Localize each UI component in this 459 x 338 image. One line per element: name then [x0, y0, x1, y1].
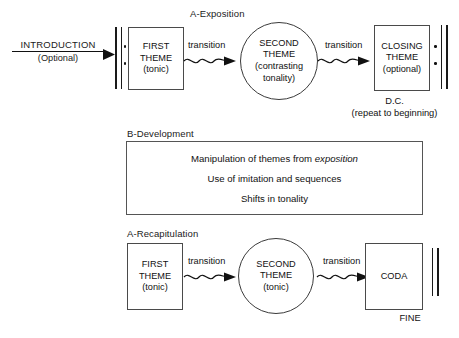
barline-thin	[432, 248, 433, 296]
recap-transition1-arrow	[184, 269, 242, 285]
dc-caption: D.C. (repeat to beginning)	[330, 96, 459, 119]
recap-coda-line1: CODA	[381, 271, 408, 283]
exposition-second-theme-line4: tonality)	[263, 73, 295, 85]
development-line-3-pre: Shifts in tonality	[241, 193, 308, 204]
barline-thin	[121, 27, 122, 89]
section-label-recapitulation: A-Recapitulation	[127, 228, 198, 239]
exposition-transition1-arrow	[184, 53, 242, 69]
exposition-transition2-arrow	[318, 53, 376, 69]
recap-first-theme-line2: THEME	[139, 271, 171, 283]
exposition-second-theme-line3: (contrasting	[255, 61, 303, 73]
development-line-2-pre: Use of imitation and sequences	[208, 173, 342, 184]
exposition-first-theme-line2: THEME	[140, 53, 172, 65]
exposition-second-theme-line1: SECOND	[259, 38, 298, 50]
introduction-subtitle: (Optional)	[38, 52, 78, 63]
recap-first-theme-line3: (tonic)	[142, 282, 168, 294]
development-line-3: Shifts in tonality	[241, 193, 308, 204]
exposition-first-theme-line1: FIRST	[143, 41, 170, 53]
exposition-closing-theme-line3: (optional)	[383, 64, 421, 76]
barline-thick	[115, 27, 117, 89]
dc-note: (repeat to beginning)	[330, 108, 459, 120]
recap-second-theme-line3: (tonic)	[263, 282, 289, 294]
recap-second-theme-circle: SECOND THEME (tonic)	[238, 238, 314, 314]
barline-thin	[441, 25, 442, 89]
repeat-dot-lower	[124, 62, 127, 65]
exposition-first-theme-line3: (tonic)	[143, 64, 169, 76]
fine-caption: FINE	[385, 313, 435, 325]
section-label-exposition: A-Exposition	[190, 8, 245, 19]
exposition-transition1-label: transition	[188, 40, 225, 50]
introduction-group: INTRODUCTION (Optional)	[12, 39, 104, 63]
development-line-1-italic: exposition	[315, 153, 358, 164]
development-line-2: Use of imitation and sequences	[208, 173, 342, 184]
introduction-title: INTRODUCTION	[20, 39, 95, 51]
exposition-second-theme-circle: SECOND THEME (contrasting tonality)	[240, 22, 318, 100]
repeat-dot-lower	[434, 62, 437, 65]
exposition-closing-theme-box: CLOSING THEME (optional)	[374, 25, 430, 91]
exposition-first-theme-box: FIRST THEME (tonic)	[128, 27, 184, 90]
recap-first-theme-line1: FIRST	[142, 259, 169, 271]
dc-label: D.C.	[330, 96, 459, 108]
exposition-transition2-label: transition	[325, 40, 362, 50]
development-panel: Manipulation of themes from exposition U…	[126, 141, 423, 215]
exposition-closing-theme-line2: THEME	[386, 52, 418, 64]
development-line-1-pre: Manipulation of themes from	[191, 153, 315, 164]
barline-thick	[446, 25, 448, 89]
barline-thick	[437, 248, 439, 296]
recap-transition1-label: transition	[188, 256, 225, 266]
exposition-second-theme-line2: THEME	[263, 49, 295, 61]
development-line-1: Manipulation of themes from exposition	[191, 153, 358, 164]
repeat-dot-upper	[434, 45, 437, 48]
recap-second-theme-line1: SECOND	[256, 259, 295, 271]
recap-second-theme-line2: THEME	[260, 270, 292, 282]
section-label-development: B-Development	[127, 128, 194, 139]
diagram-canvas: A-Exposition INTRODUCTION (Optional) FIR…	[0, 0, 459, 338]
repeat-dot-upper	[124, 45, 127, 48]
recap-first-theme-box: FIRST THEME (tonic)	[127, 243, 183, 310]
recap-transition2-label: transition	[323, 256, 360, 266]
recap-coda-box: CODA	[365, 243, 423, 310]
exposition-closing-theme-line1: CLOSING	[381, 41, 422, 53]
